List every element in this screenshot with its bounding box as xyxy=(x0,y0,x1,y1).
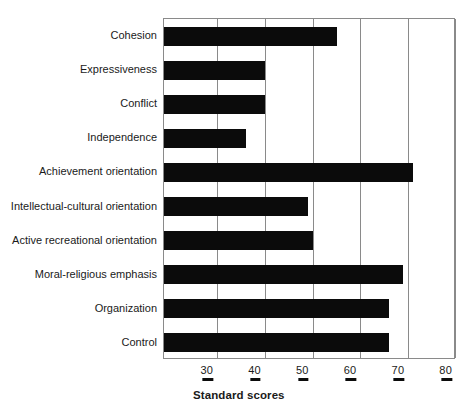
bar xyxy=(164,333,389,352)
category-label: Control xyxy=(0,336,157,348)
bar xyxy=(164,197,308,216)
x-tick-label: 70 xyxy=(392,364,405,376)
category-label: Cohesion xyxy=(0,29,157,41)
plot-area xyxy=(163,18,455,359)
x-tick-underline xyxy=(202,378,213,381)
x-tick-50: 50 xyxy=(296,364,312,381)
bar xyxy=(164,299,389,318)
category-label: Organization xyxy=(0,302,157,314)
x-tick-80: 80 xyxy=(439,364,455,381)
x-tick-underline xyxy=(250,378,261,381)
category-label: Independence xyxy=(0,131,157,143)
bar-row xyxy=(164,197,456,216)
bar xyxy=(164,265,403,284)
x-tick-40: 40 xyxy=(248,364,264,381)
x-axis-title: Standard scores xyxy=(193,389,285,401)
bar xyxy=(164,95,265,114)
x-tick-underline xyxy=(441,378,452,381)
x-tick-underline xyxy=(346,378,357,381)
value-axis: 304050607080 xyxy=(0,359,475,385)
x-tick-underline xyxy=(394,378,405,381)
bar-row xyxy=(164,27,456,46)
bar-row xyxy=(164,299,456,318)
x-tick-label: 40 xyxy=(248,364,261,376)
x-tick-underline xyxy=(298,378,309,381)
bar-row xyxy=(164,231,456,250)
category-label: Achievement orientation xyxy=(0,165,157,177)
bar-row xyxy=(164,129,456,148)
bar xyxy=(164,231,313,250)
bar xyxy=(164,129,246,148)
bar-row xyxy=(164,95,456,114)
category-label: Intellectual-cultural orientation xyxy=(0,200,157,212)
bar-chart: CohesionExpressivenessConflictIndependen… xyxy=(0,0,475,420)
bar xyxy=(164,163,413,182)
bar-row xyxy=(164,61,456,80)
x-tick-label: 30 xyxy=(200,364,213,376)
bar-row xyxy=(164,333,456,352)
x-tick-30: 30 xyxy=(200,364,216,381)
x-tick-label: 80 xyxy=(439,364,452,376)
category-label: Expressiveness xyxy=(0,63,157,75)
x-tick-70: 70 xyxy=(392,364,408,381)
x-tick-60: 60 xyxy=(344,364,360,381)
category-axis: CohesionExpressivenessConflictIndependen… xyxy=(0,18,157,359)
bar-row xyxy=(164,163,456,182)
category-label: Moral-religious emphasis xyxy=(0,268,157,280)
category-label: Conflict xyxy=(0,97,157,109)
bar-row xyxy=(164,265,456,284)
category-label: Active recreational orientation xyxy=(0,234,157,246)
bar xyxy=(164,27,337,46)
bar xyxy=(164,61,265,80)
x-tick-label: 60 xyxy=(344,364,357,376)
x-tick-label: 50 xyxy=(296,364,309,376)
